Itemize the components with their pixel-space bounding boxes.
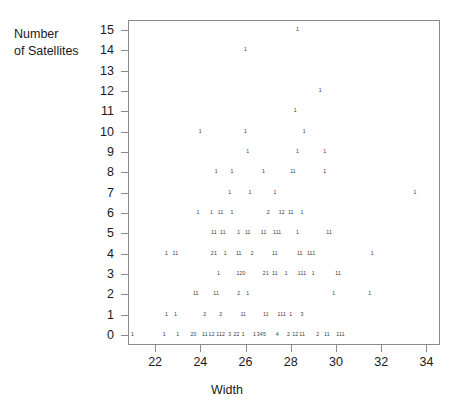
y-axis-tick-mark [121, 91, 128, 92]
data-point-mark: 22 [233, 332, 239, 337]
data-point-mark: 1 [319, 88, 322, 93]
data-point-mark: 111 [273, 231, 281, 236]
data-point-mark: 1 [197, 210, 200, 215]
data-point-mark: 1 [242, 332, 245, 337]
data-point-mark: 11 [272, 251, 278, 256]
y-axis-tick-mark [121, 294, 128, 295]
x-axis-tick-label: 32 [367, 355, 395, 369]
y-axis-tick-mark [121, 50, 128, 51]
data-point-mark: 11 [299, 332, 305, 337]
plot-area-frame [128, 20, 440, 345]
data-point-mark: 21 [263, 271, 269, 276]
y-axis-tick-mark [121, 233, 128, 234]
x-axis-tick-label: 28 [277, 355, 305, 369]
y-axis-tick-label: 12 [100, 83, 114, 99]
y-axis-tick-label: 6 [107, 205, 114, 221]
data-point-mark: 20 [190, 332, 196, 337]
data-point-mark: 11 [240, 312, 246, 317]
data-point-mark: 1 [237, 231, 240, 236]
data-point-mark: 1 [273, 190, 276, 195]
y-axis-tick-label: 15 [100, 22, 114, 38]
data-point-mark: 1 [301, 210, 304, 215]
y-axis-tick-mark [121, 152, 128, 153]
data-point-mark: 1 [176, 332, 179, 337]
data-point-mark: 11 [335, 271, 341, 276]
data-point-mark: 12 [292, 332, 298, 337]
y-axis-tick-mark [121, 315, 128, 316]
data-point-mark: 11 [263, 312, 269, 317]
data-point-mark: 1 [131, 332, 134, 337]
y-axis-tick-label: 14 [100, 42, 114, 58]
data-point-mark: 11 [220, 231, 226, 236]
y-axis-tick-mark [121, 71, 128, 72]
data-point-mark: 345 [257, 332, 266, 337]
y-axis-tick-label: 0 [107, 327, 114, 343]
data-point-mark: 11 [193, 292, 199, 297]
y-axis-tick-label: 10 [100, 124, 114, 140]
data-point-mark: 11 [245, 231, 251, 236]
data-point-mark: 11 [218, 210, 224, 215]
data-point-mark: 11 [297, 251, 303, 256]
data-point-mark: 2 [267, 210, 270, 215]
data-point-mark: 3 [301, 312, 304, 317]
data-point-mark: 1 [303, 129, 306, 134]
data-point-mark: 1 [246, 292, 249, 297]
data-point-mark: 2 [219, 312, 222, 317]
data-point-mark: 1 [371, 251, 374, 256]
data-point-mark: 1 [296, 231, 299, 236]
x-axis-tick-label: 34 [412, 355, 440, 369]
data-point-mark: 1 [249, 190, 252, 195]
data-point-mark: 2 [203, 312, 206, 317]
data-point-mark: 11 [290, 170, 296, 175]
data-point-mark: 4 [276, 332, 279, 337]
y-axis-tick-mark [121, 30, 128, 31]
x-axis-tick-label: 30 [322, 355, 350, 369]
data-point-mark: 120 [236, 271, 245, 276]
data-point-mark: 1 [323, 149, 326, 154]
y-axis-tick-mark [121, 111, 128, 112]
scatter-plot-figure: Number of Satellites 1514131211109876543… [0, 0, 454, 414]
x-axis-tick-mark [336, 345, 337, 352]
y-axis-tick-label: 11 [101, 103, 114, 119]
data-point-mark: 111 [298, 271, 306, 276]
data-point-mark: 2 [287, 332, 290, 337]
data-point-mark: 1 [368, 292, 371, 297]
x-axis-tick-mark [200, 345, 201, 352]
data-point-mark: 1 [296, 28, 299, 33]
data-point-mark: 1 [199, 129, 202, 134]
y-axis-tick-mark [121, 132, 128, 133]
y-axis-tick-mark [121, 172, 128, 173]
y-axis-tick-mark [121, 213, 128, 214]
y-axis-tick-label: 1 [107, 307, 114, 323]
x-axis-tick-label: 26 [232, 355, 260, 369]
data-point-mark: 1 [230, 210, 233, 215]
data-point-mark: 11 [324, 332, 330, 337]
x-axis-tick-mark [246, 345, 247, 352]
data-point-mark: 112 [216, 332, 225, 337]
data-point-mark: 11 [272, 271, 278, 276]
y-axis-tick-label: 9 [107, 144, 114, 160]
data-point-mark: 111 [307, 251, 315, 256]
data-point-mark: 111 [277, 312, 285, 317]
data-point-mark: 1 [210, 210, 213, 215]
data-point-mark: 1 [224, 251, 227, 256]
y-axis-tick-mark [121, 254, 128, 255]
x-axis-tick-mark [381, 345, 382, 352]
data-point-mark: 1 [285, 271, 288, 276]
data-point-mark: 11 [211, 231, 217, 236]
data-point-mark: 1 [332, 292, 335, 297]
data-point-mark: 3 [228, 332, 231, 337]
data-point-mark: 1 [174, 312, 177, 317]
data-point-mark: 21 [211, 251, 217, 256]
data-point-mark: 12 [279, 210, 285, 215]
data-point-mark: 1 [296, 149, 299, 154]
data-point-mark: 1 [228, 190, 231, 195]
y-axis-tick-label: 7 [107, 185, 114, 201]
data-point-mark: 1 [294, 109, 297, 114]
data-point-mark: 1 [244, 129, 247, 134]
x-axis-tick-mark [291, 345, 292, 352]
data-point-mark: 1 [244, 48, 247, 53]
data-point-mark: 1 [312, 271, 315, 276]
y-axis-tick-label: 8 [107, 164, 114, 180]
y-axis-tick-label: 4 [107, 246, 114, 262]
